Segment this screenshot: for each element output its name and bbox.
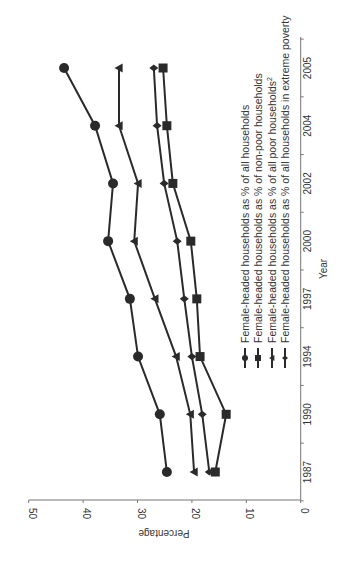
y-tick-label: 10: [244, 508, 255, 520]
x-tick-label: 2004: [302, 114, 313, 137]
x-tick-label: 1997: [302, 287, 313, 310]
x-tick-label: 1994: [302, 345, 313, 368]
legend-item: Female-headed households as % of all poo…: [266, 77, 278, 368]
x-axis-label: Year: [318, 258, 329, 279]
legend-label: Female-headed households as % of non-poo…: [252, 73, 264, 343]
line-chart: 01020304050 1987199019941997200020022004…: [0, 0, 351, 574]
legend-label: Female-headed households as % of all poo…: [266, 77, 278, 343]
series-layer: [59, 63, 231, 477]
legend-item: Female-headed households as % of all hou…: [279, 15, 291, 368]
y-tick-label: 50: [27, 508, 38, 520]
legend-item: Female-headed households as % of all hou…: [239, 105, 251, 368]
x-tick-label: 1987: [302, 460, 313, 483]
legend-item: Female-headed households as % of non-poo…: [252, 73, 264, 368]
y-tick-label: 20: [190, 508, 201, 520]
y-tick-label: 0: [299, 508, 310, 514]
x-tick-label: 2005: [302, 56, 313, 79]
y-axis-label: Percentage: [138, 528, 190, 539]
series-square: [159, 64, 231, 477]
y-tick-label: 30: [136, 508, 147, 520]
x-tick-label: 2000: [302, 230, 313, 253]
percentage-axis: 01020304050: [27, 500, 310, 520]
legend: Female-headed households as % of all hou…: [239, 15, 291, 368]
year-axis: 19871990199419972000200220042005: [301, 37, 313, 501]
x-tick-label: 1990: [302, 403, 313, 426]
legend-label: Female-headed households as % of all hou…: [239, 105, 251, 343]
x-tick-label: 2002: [302, 172, 313, 195]
legend-label: Female-headed households as % of all hou…: [279, 15, 291, 343]
y-tick-label: 40: [81, 508, 92, 520]
